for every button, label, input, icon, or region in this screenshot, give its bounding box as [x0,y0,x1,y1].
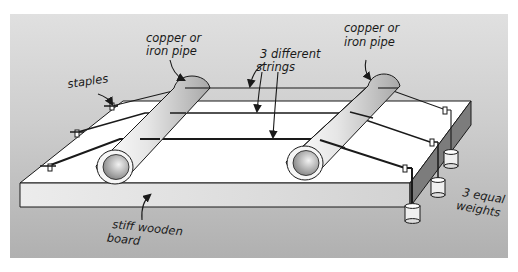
weight-2 [431,178,445,198]
label-pipe-left: copper oriron pipe [146,31,202,58]
board-front-face [20,183,410,207]
staple-icon [75,130,79,137]
staple-icon [443,107,447,114]
staple-icon [48,164,52,171]
weight-3 [405,204,420,224]
string-apparatus-diagram: copper oriron pipe copper oriron pipe st… [0,0,518,272]
staple-icon [403,165,407,172]
weight-1 [444,150,458,169]
label-pipe-right: copper oriron pipe [344,21,400,49]
staple-icon [430,139,434,146]
